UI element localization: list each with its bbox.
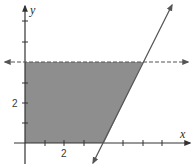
- x-tick-label-2: 2: [61, 148, 67, 159]
- y-tick-label-2: 2: [12, 98, 18, 109]
- shaded-region: [25, 62, 143, 143]
- inequality-graph: y x 2 2: [0, 0, 194, 168]
- y-axis-label: y: [29, 3, 36, 17]
- x-axis-label: x: [179, 127, 186, 141]
